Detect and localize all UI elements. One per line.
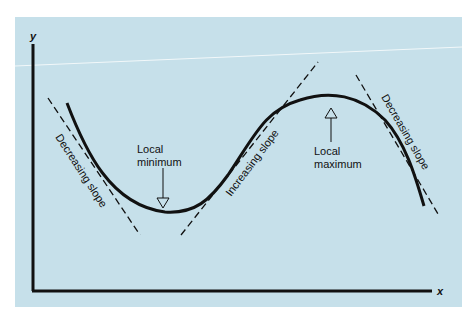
- max-arrow-head-icon: [325, 108, 337, 118]
- local-min-label-1: Local: [137, 143, 163, 155]
- y-axis-label: y: [29, 30, 37, 42]
- paper-crease: [15, 47, 462, 66]
- x-axis-label: x: [436, 285, 444, 297]
- local-max-label-1: Local: [314, 145, 340, 157]
- slope-diagram: y x Local minimum Local maximum Decreasi…: [0, 0, 472, 319]
- local-max-label-2: maximum: [314, 158, 362, 170]
- right-tangent-line: [356, 75, 438, 214]
- left-tangent-line: [48, 98, 140, 235]
- right-slope-label: Decreasing slope: [379, 92, 432, 172]
- min-arrow-head-icon: [157, 198, 169, 208]
- middle-tangent-line: [181, 62, 318, 235]
- local-min-label-2: minimum: [137, 156, 182, 168]
